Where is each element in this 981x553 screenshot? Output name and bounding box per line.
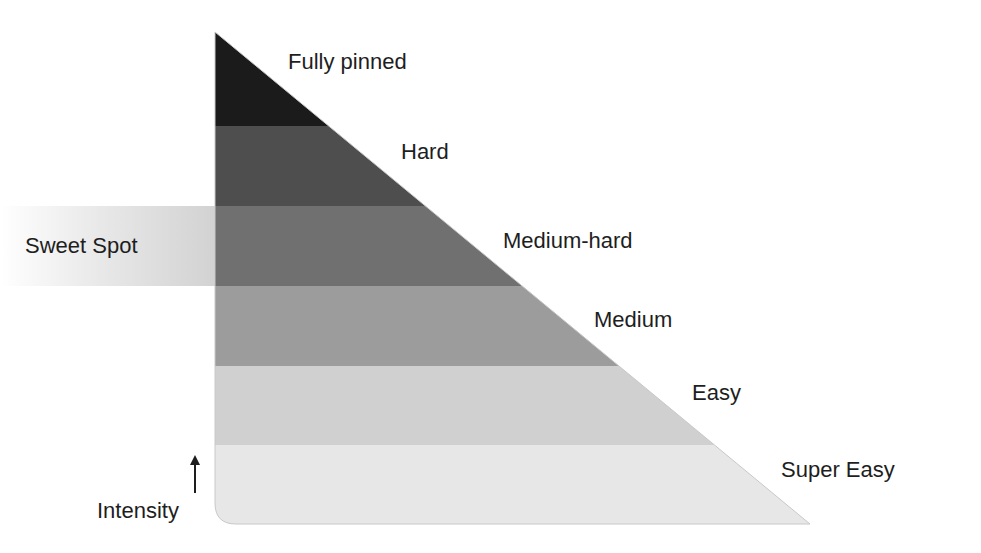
up-arrow-icon: [189, 455, 201, 493]
band-easy: [200, 366, 900, 445]
label-sweet-spot: Sweet Spot: [25, 235, 138, 257]
band-medium: [200, 286, 900, 366]
intensity-diagram: Fully pinned Hard Medium-hard Medium Eas…: [0, 0, 981, 553]
label-medium: Medium: [594, 309, 672, 331]
label-easy: Easy: [692, 382, 741, 404]
band-hard: [200, 126, 900, 206]
label-fully-pinned: Fully pinned: [288, 51, 407, 73]
label-intensity: Intensity: [97, 500, 179, 522]
label-hard: Hard: [401, 141, 449, 163]
label-super-easy: Super Easy: [781, 459, 895, 481]
label-medium-hard: Medium-hard: [503, 230, 633, 252]
